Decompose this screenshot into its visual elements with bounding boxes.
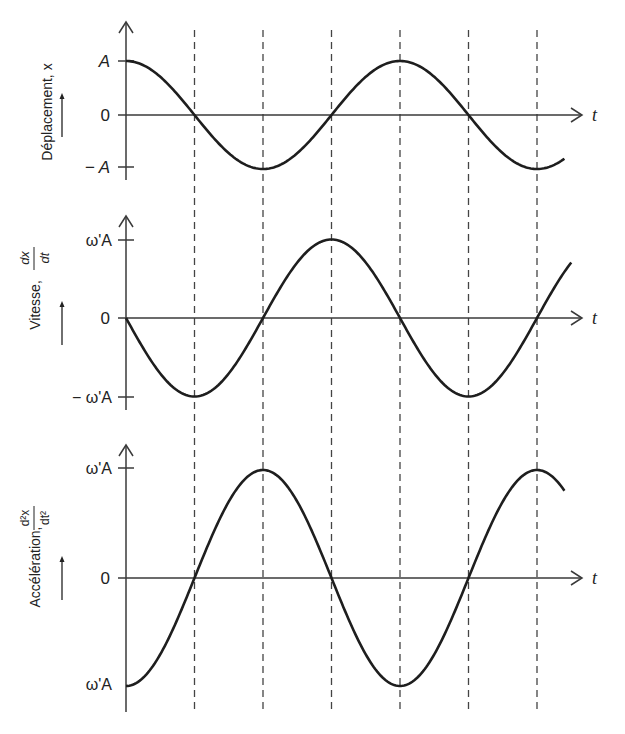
y-axis-label-fraction-den: dt² [38, 511, 52, 525]
y-axis-label: Vitesse, [27, 280, 43, 330]
y-axis-label-fraction-den: dt [37, 251, 52, 263]
tick-label-zero: 0 [101, 569, 110, 588]
t-axis-label: t [592, 568, 598, 588]
tick-label-bottom: ω'A [86, 676, 113, 693]
y-axis-label: Accélération, [27, 527, 43, 608]
tick-label-top: ω'A [86, 460, 113, 477]
t-axis-label: t [592, 105, 598, 125]
tick-label-bottom: − ω'A [72, 389, 112, 406]
y-direction-arrowhead-icon [60, 301, 65, 307]
y-direction-arrowhead-icon [60, 93, 65, 99]
tick-label-bottom: − A [85, 158, 110, 177]
shm-chart: A 0 − A t Déplacement, x ω'A 0 − ω'A t V… [0, 0, 625, 734]
t-axis-label: t [592, 308, 598, 328]
y-axis-label-fraction-num: d²x [18, 510, 32, 527]
y-axis-label-fraction-num: dx [17, 251, 32, 265]
y-direction-arrowhead-icon [60, 556, 65, 562]
phase-gridlines [195, 30, 538, 714]
tick-label-zero: 0 [101, 309, 110, 328]
tick-label-top: A [98, 52, 110, 71]
y-axis-label: Déplacement, x [39, 63, 55, 160]
displacement-panel: A 0 − A t Déplacement, x [39, 22, 598, 180]
tick-label-zero: 0 [101, 106, 110, 125]
tick-label-top: ω'A [86, 232, 113, 249]
acceleration-panel: ω'A 0 ω'A t Accélération, d²x dt² [18, 445, 598, 712]
velocity-panel: ω'A 0 − ω'A t Vitesse, dx dt [17, 216, 598, 410]
